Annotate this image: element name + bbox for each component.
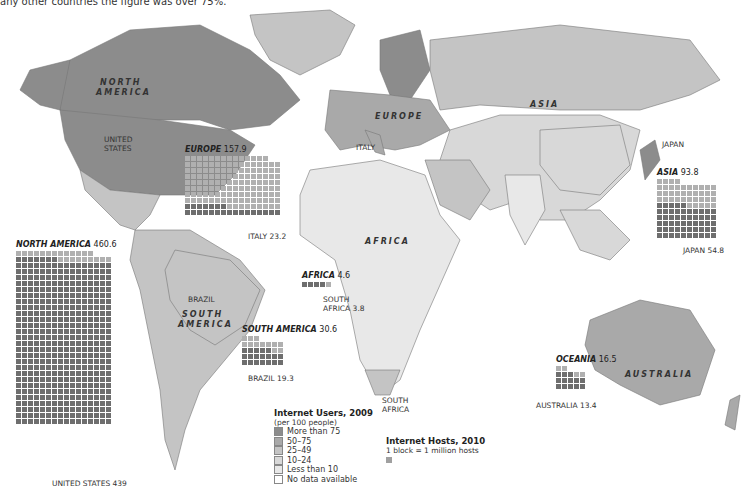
- waffle-block: [58, 323, 63, 328]
- waffle-block: [266, 360, 271, 365]
- waffle-block: [40, 341, 45, 346]
- waffle-block: [227, 186, 232, 191]
- waffle-block: [215, 156, 220, 161]
- waffle-block: [28, 287, 33, 292]
- waffle-block: [185, 180, 190, 185]
- waffle-block: [251, 180, 256, 185]
- waffle-block: [221, 210, 226, 215]
- waffle-head-asia: ASIA 93.8: [657, 168, 698, 177]
- waffle-block: [34, 257, 39, 262]
- waffle-block: [40, 299, 45, 304]
- waffle-block: [40, 275, 45, 280]
- waffle-block: [22, 407, 27, 412]
- waffle-block: [257, 180, 262, 185]
- waffle-block: [251, 162, 256, 167]
- waffle-block: [693, 233, 698, 238]
- waffle-block: [669, 179, 674, 184]
- waffle-block: [28, 389, 33, 394]
- waffle-block: [40, 365, 45, 370]
- waffle-block: [556, 384, 561, 389]
- waffle-block: [227, 156, 232, 161]
- waffle-block: [76, 377, 81, 382]
- waffle-block: [58, 371, 63, 376]
- waffle-block: [70, 419, 75, 424]
- waffle-block: [34, 389, 39, 394]
- waffle-block: [687, 185, 692, 190]
- waffle-block: [263, 168, 268, 173]
- waffle-block: [94, 311, 99, 316]
- waffle-block: [106, 305, 111, 310]
- waffle-block: [58, 251, 63, 256]
- waffle-block: [100, 269, 105, 274]
- waffle-block: [308, 282, 313, 287]
- waffle-block: [233, 204, 238, 209]
- waffle-block: [16, 287, 21, 292]
- waffle-block: [263, 180, 268, 185]
- waffle-block: [699, 197, 704, 202]
- waffle-block: [215, 186, 220, 191]
- waffle-block: [233, 174, 238, 179]
- waffle-block: [269, 204, 274, 209]
- waffle-block: [46, 275, 51, 280]
- waffle-block: [239, 192, 244, 197]
- waffle-block: [239, 162, 244, 167]
- waffle-block: [52, 275, 57, 280]
- waffle-block: [669, 203, 674, 208]
- waffle-block: [88, 305, 93, 310]
- waffle-block: [711, 221, 716, 226]
- waffle-block: [58, 335, 63, 340]
- waffle-block: [185, 168, 190, 173]
- waffle-block: [28, 317, 33, 322]
- waffle-block: [203, 180, 208, 185]
- waffle-block: [22, 257, 27, 262]
- waffle-block: [16, 305, 21, 310]
- waffle-block: [233, 186, 238, 191]
- waffle-block: [705, 215, 710, 220]
- waffle-block: [269, 174, 274, 179]
- waffle-block: [28, 299, 33, 304]
- waffle-block: [70, 365, 75, 370]
- waffle-block: [275, 168, 280, 173]
- waffle-block: [278, 336, 283, 341]
- waffle-block: [185, 210, 190, 215]
- waffle-head-south-america: SOUTH AMERICA 30.6: [242, 325, 337, 334]
- waffle-block: [197, 180, 202, 185]
- new-zealand: [725, 395, 740, 430]
- waffle-block: [245, 180, 250, 185]
- waffle-block: [82, 359, 87, 364]
- waffle-block: [106, 293, 111, 298]
- waffle-block: [70, 281, 75, 286]
- waffle-block: [46, 257, 51, 262]
- waffle-block: [100, 383, 105, 388]
- waffle-block: [88, 275, 93, 280]
- waffle-block: [705, 191, 710, 196]
- waffle-block: [106, 323, 111, 328]
- label-africa: AFRICA: [365, 237, 410, 246]
- label-japan-54: JAPAN 54.8: [683, 246, 724, 255]
- waffle-block: [278, 342, 283, 347]
- waffle-block: [687, 203, 692, 208]
- waffle-block: [76, 269, 81, 274]
- waffle-block: [106, 287, 111, 292]
- waffle-block: [28, 269, 33, 274]
- waffle-block: [248, 360, 253, 365]
- waffle-block: [16, 383, 21, 388]
- waffle-block: [106, 389, 111, 394]
- waffle-block: [22, 329, 27, 334]
- waffle-block: [269, 186, 274, 191]
- waffle-block: [227, 180, 232, 185]
- waffle-block: [88, 251, 93, 256]
- waffle-block: [16, 251, 21, 256]
- waffle-block: [22, 341, 27, 346]
- waffle-block: [687, 209, 692, 214]
- waffle-block: [52, 377, 57, 382]
- waffle-block: [82, 281, 87, 286]
- waffle-block: [106, 407, 111, 412]
- waffle-block: [106, 311, 111, 316]
- waffle-block: [46, 347, 51, 352]
- waffle-block: [82, 371, 87, 376]
- waffle-block: [94, 341, 99, 346]
- waffle-block: [663, 203, 668, 208]
- waffle-block: [28, 365, 33, 370]
- waffle-block: [34, 323, 39, 328]
